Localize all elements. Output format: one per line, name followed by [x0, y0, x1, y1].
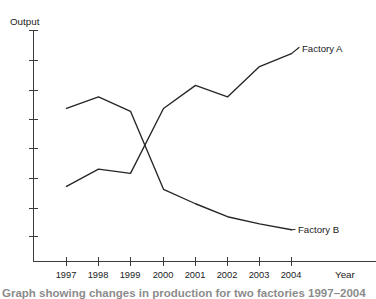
series-line-factory-a [67, 54, 292, 187]
x-tick-label: 1999 [120, 270, 141, 280]
x-tick-label: 1997 [56, 270, 77, 280]
x-tick-label: 2002 [217, 270, 238, 280]
series-label-factory-b: Factory B [298, 224, 339, 235]
chart-canvas: Output [0, 0, 376, 299]
line-chart-figure: Output [0, 0, 376, 299]
x-tick-label: 2001 [185, 270, 206, 280]
x-tick-label: 2004 [281, 270, 302, 280]
x-axis-tick-labels: 1997 1998 1999 2000 2001 2002 2003 2004 [56, 270, 302, 280]
figure-caption-strip: Graph showing changes in production for … [0, 288, 376, 299]
series-line-factory-b [67, 97, 292, 230]
figure-caption: Graph showing changes in production for … [2, 288, 366, 299]
y-axis-title: Output [10, 16, 40, 27]
data-series-group [67, 48, 300, 230]
x-tick-label: 1998 [88, 270, 109, 280]
x-axis-title: Year [335, 269, 356, 280]
x-tick-label: 2000 [153, 270, 174, 280]
x-tick-label: 2003 [249, 270, 270, 280]
series-label-factory-a: Factory A [302, 43, 343, 54]
series-leader-factory-a [292, 48, 300, 54]
